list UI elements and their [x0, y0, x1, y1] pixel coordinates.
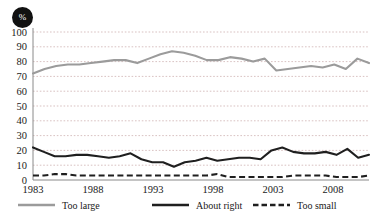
y-axis-tick-label: 30 [17, 130, 28, 141]
chart-legend: Too largeAbout rightToo small [18, 200, 337, 211]
y-axis-tick-label: 100 [11, 27, 27, 38]
line-chart-svg: 1009080706050403020100 19831988199319982… [0, 0, 378, 218]
x-axis-tick-label: 1998 [203, 184, 224, 195]
y-axis-tick-label: 20 [17, 145, 28, 156]
legend-label-too-small: Too small [297, 200, 337, 211]
x-axis-tick-label: 1988 [83, 184, 104, 195]
x-axis-ticks: 198319881993199820032008 [23, 184, 344, 195]
y-axis-tick-label: 10 [17, 160, 28, 171]
chart-container: % 1009080706050403020100 198319881993199… [0, 0, 378, 218]
data-series-group [33, 51, 369, 177]
y-axis-tick-label: 80 [17, 56, 28, 67]
percent-badge: % [12, 7, 33, 28]
x-axis-tick-label: 1983 [23, 184, 44, 195]
y-axis-tick-label: 70 [17, 71, 28, 82]
y-axis-tick-label: 50 [17, 101, 28, 112]
x-axis-tick-label: 2008 [323, 184, 344, 195]
y-axis-ticks: 1009080706050403020100 [11, 27, 27, 186]
gridlines-group [33, 32, 369, 165]
legend-label-too-large: Too large [62, 200, 100, 211]
x-axis-tick-label: 2003 [263, 184, 284, 195]
axis-lines-group [33, 28, 369, 180]
x-axis-tick-label: 1993 [143, 184, 164, 195]
legend-label-about-right: About right [196, 200, 243, 211]
y-axis-tick-label: 90 [17, 41, 28, 52]
series-line-too-small [33, 174, 369, 177]
y-axis-tick-label: 40 [17, 115, 28, 126]
series-line-too-large [33, 51, 369, 73]
y-axis-tick-label: 60 [17, 86, 28, 97]
